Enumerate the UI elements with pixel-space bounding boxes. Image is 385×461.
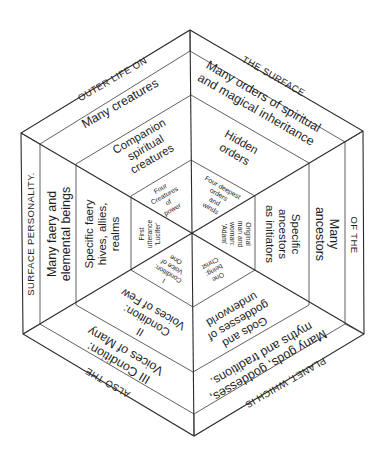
label-outer-right: OF THE [349,216,360,253]
core-labels: Four Creatures of power Four deepest ord… [138,174,252,291]
label-ring3-right-2: ancestors [277,209,289,259]
label-core-right-4: 'Adam' [221,224,228,244]
label-core-bottom-left-1: I [161,277,166,284]
label-ring2-right-1: Many [327,219,341,250]
label-core-right-2: man and [237,221,244,248]
label-ring3-left-2: hives, allies, [96,203,108,266]
label-core-right-3: woman: [229,221,236,246]
label-core-left-2: utterance [146,220,153,249]
label-core-left-1: First [138,227,145,240]
label-ring3-left-1: Specific faery [83,199,95,268]
label-ring3-right-3: as initiators [264,205,276,263]
label-outer-left: SURFACE PERSONALITY. [25,172,36,295]
label-core-left-3: 'Lucifer' [154,223,161,246]
label-ring3-left-3: realms [109,217,121,252]
label-ring2-left-2: elemental beings [59,187,73,282]
label-core-right-1: Original [244,222,252,246]
label-ring2-right-2: ancestors [313,207,327,261]
hexagon-diagram: OUTER LIFE ON THE SURFACE OF THE PLANET,… [0,0,385,461]
label-ring2-left-1: Many faery and [45,191,59,277]
label-ring3-right-1: Specific [290,214,302,255]
